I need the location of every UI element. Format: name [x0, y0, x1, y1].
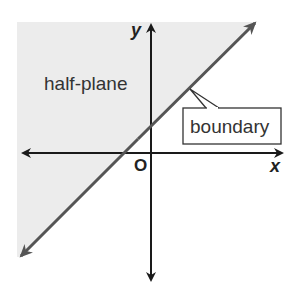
boundary-callout-pointer: [190, 89, 219, 108]
half-plane-diagram: half-plane boundary y x O: [0, 0, 295, 288]
x-axis-label: x: [269, 156, 281, 176]
y-axis-label: y: [130, 20, 142, 40]
half-plane-label: half-plane: [44, 73, 127, 94]
boundary-label: boundary: [190, 116, 270, 137]
origin-label: O: [134, 156, 147, 175]
